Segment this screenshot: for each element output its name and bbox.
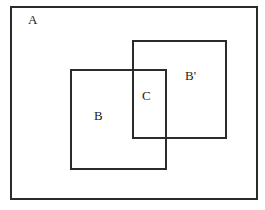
rectangle-set-b <box>71 70 166 169</box>
diagram-canvas <box>0 0 265 210</box>
label-set-b: B <box>94 109 103 122</box>
label-intersection-c: C <box>142 89 151 102</box>
label-set-a: A <box>28 13 38 26</box>
rectangle-set-a <box>11 7 257 199</box>
set-diagram: A B C B' <box>0 0 265 210</box>
label-set-b-prime: B' <box>185 69 196 82</box>
